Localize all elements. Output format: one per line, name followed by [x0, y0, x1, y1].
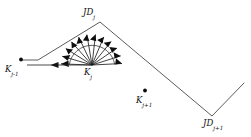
- label-k-j: Kj: [84, 68, 92, 79]
- fan-arrowhead: [83, 35, 90, 41]
- label-jd-j-plus-1: JDj+1: [203, 119, 224, 130]
- marker-k-j-plus-1: [143, 89, 147, 93]
- label-jd-j-plus-1-subscript: j+1: [213, 125, 223, 131]
- diagram-svg: [0, 0, 251, 137]
- label-k-j-subscript: j: [90, 74, 92, 80]
- fan-arrowhead: [109, 47, 117, 53]
- label-jd-j-plus-1-base: JD: [203, 118, 213, 128]
- marker-k-j-minus-1: [19, 58, 23, 62]
- fan-arrowhead: [77, 37, 83, 44]
- trajectory-polyline: [21, 22, 244, 116]
- fan-arrowhead: [61, 61, 69, 67]
- backward-arrow: [27, 62, 92, 68]
- fan-arrowhead: [90, 35, 96, 42]
- fan-arrowhead: [97, 37, 104, 44]
- point-markers: [19, 58, 147, 93]
- label-jd-j: JDj: [83, 8, 95, 19]
- label-k-j-minus-1-subscript: j-1: [11, 71, 18, 77]
- backward-arrow-head: [51, 62, 59, 68]
- fan-arrowhead: [66, 49, 73, 55]
- figure-canvas: JDj JDj+1 Kj-1 Kj Kj+1: [0, 0, 251, 137]
- fan-arrowhead: [104, 42, 112, 48]
- label-jd-j-subscript: j: [93, 14, 95, 20]
- path-polyline: [21, 22, 244, 116]
- label-k-j-plus-1: Kj+1: [136, 96, 153, 107]
- label-k-j-plus-1-subscript: j+1: [142, 102, 152, 108]
- label-k-j-minus-1: Kj-1: [5, 65, 19, 76]
- label-jd-j-base: JD: [83, 7, 93, 17]
- fan-arrowhead: [114, 52, 121, 58]
- direction-fan: [61, 35, 122, 68]
- fan-arrowhead: [115, 58, 122, 64]
